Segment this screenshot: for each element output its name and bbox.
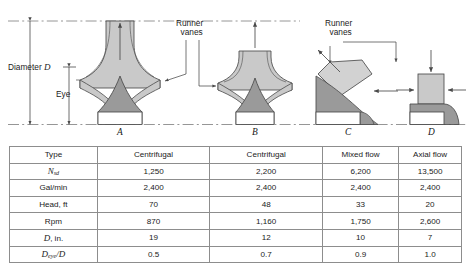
table-cell: 2,600 <box>399 213 462 230</box>
pump-data-table-wrapper: Type Centrifugal Centrifugal Mixed flow … <box>9 146 462 263</box>
runner-vanes-label-left: Runner vanes <box>176 19 203 36</box>
diameter-dimension-label: Diameter D <box>8 63 50 72</box>
table-cell: 1.0 <box>399 246 462 263</box>
diameter-label-text: Diameter <box>8 62 42 72</box>
table-row: Gal/min 2,400 2,400 2,400 2,400 <box>10 180 462 197</box>
table-cell: 2,400 <box>322 180 398 197</box>
table-cell: 13,500 <box>399 163 462 180</box>
diagram-c-mixed-flow <box>316 50 398 125</box>
row-label-deye-subscript: eye <box>48 254 56 260</box>
row-label-head-ft: Head, ft <box>10 196 98 213</box>
table-header-centrifugal-2: Centrifugal <box>210 147 323 164</box>
runner-vanes-left-leaders <box>165 40 216 86</box>
table-header-type: Type <box>10 147 98 164</box>
runner-vanes-right-line2: vanes <box>329 28 352 37</box>
runner-vanes-left-line2: vanes <box>180 28 203 37</box>
table-row: Rpm 870 1,160 1,750 2,600 <box>10 213 462 230</box>
table-cell: 19 <box>97 229 210 246</box>
table-cell: 2,400 <box>97 180 210 197</box>
table-cell: 2,200 <box>210 163 323 180</box>
diagram-a-centrifugal <box>80 21 160 125</box>
table-cell: 0.9 <box>322 246 398 263</box>
diagram-letter-a: A <box>117 127 123 137</box>
table-cell: 48 <box>210 196 323 213</box>
impeller-diagram-svg <box>0 0 472 140</box>
pump-impeller-figure: Diameter D Eye Runner vanes Runner vanes… <box>0 0 472 263</box>
impeller-diagrams: Diameter D Eye Runner vanes Runner vanes… <box>0 0 472 140</box>
table-cell: 70 <box>97 196 210 213</box>
diagram-letter-c: C <box>345 127 351 137</box>
diagram-letter-b: B <box>252 127 258 137</box>
row-label-deye-over-d: Deye/D <box>10 246 98 263</box>
table-cell: 10 <box>322 229 398 246</box>
table-header-centrifugal-1: Centrifugal <box>97 147 210 164</box>
table-cell: 33 <box>322 196 398 213</box>
eye-dimension-label: Eye <box>56 90 70 99</box>
table-row: Nsd 1,250 2,200 6,200 13,500 <box>10 163 462 180</box>
table-cell: 870 <box>97 213 210 230</box>
table-row: Deye/D 0.5 0.7 0.9 1.0 <box>10 246 462 263</box>
table-header-axial-flow: Axial flow <box>399 147 462 164</box>
diagram-letter-d: D <box>428 127 435 137</box>
table-cell: 1,250 <box>97 163 210 180</box>
table-row: Head, ft 70 48 33 20 <box>10 196 462 213</box>
row-label-nsd-subscript: sd <box>54 171 59 177</box>
row-label-rpm: Rpm <box>10 213 98 230</box>
table-cell: 6,200 <box>322 163 398 180</box>
row-label-gal-per-min: Gal/min <box>10 180 98 197</box>
table-cell: 2,400 <box>399 180 462 197</box>
row-label-nsd: Nsd <box>10 163 98 180</box>
pump-data-table: Type Centrifugal Centrifugal Mixed flow … <box>9 146 462 263</box>
table-cell: 2,400 <box>210 180 323 197</box>
table-row: D, in. 19 12 10 7 <box>10 229 462 246</box>
table-cell: 0.7 <box>210 246 323 263</box>
table-header-row: Type Centrifugal Centrifugal Mixed flow … <box>10 147 462 164</box>
table-cell: 12 <box>210 229 323 246</box>
runner-vanes-label-right: Runner vanes <box>325 19 352 36</box>
table-cell: 1,750 <box>322 213 398 230</box>
diagram-b-centrifugal <box>218 22 292 125</box>
table-cell: 1,160 <box>210 213 323 230</box>
diagram-d-axial-flow <box>396 50 466 125</box>
row-label-d-in: D, in. <box>10 229 98 246</box>
table-cell: 0.5 <box>97 246 210 263</box>
diameter-symbol: D <box>44 62 51 72</box>
table-cell: 7 <box>399 229 462 246</box>
table-cell: 20 <box>399 196 462 213</box>
table-header-mixed-flow: Mixed flow <box>322 147 398 164</box>
